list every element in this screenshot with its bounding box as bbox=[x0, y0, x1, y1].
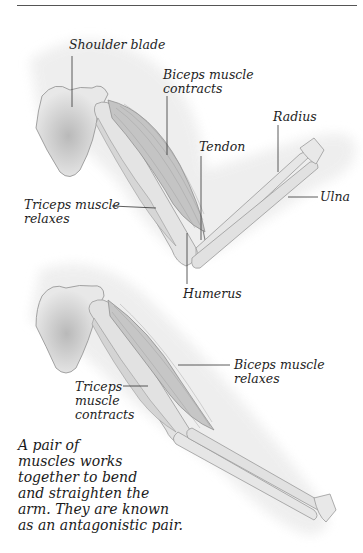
label-line: Triceps bbox=[75, 380, 134, 394]
label-humerus: Humerus bbox=[183, 287, 242, 301]
caption-line: A pair of bbox=[18, 437, 188, 453]
label-line: Triceps muscle bbox=[24, 198, 120, 212]
label-line: muscle bbox=[75, 394, 134, 408]
label-ulna: Ulna bbox=[320, 190, 350, 204]
label-shoulder-blade: Shoulder blade bbox=[69, 38, 165, 52]
caption-line: arm. They are known bbox=[18, 501, 188, 517]
caption-line: muscles works bbox=[18, 453, 188, 469]
label-tendon: Tendon bbox=[199, 140, 245, 154]
caption: A pair of muscles works together to bend… bbox=[18, 437, 188, 533]
caption-line: as an antagonistic pair. bbox=[18, 517, 188, 533]
label-line: contracts bbox=[163, 82, 254, 96]
caption-line: and straighten the bbox=[18, 485, 188, 501]
label-line: contracts bbox=[75, 408, 134, 422]
label-line: Biceps muscle bbox=[163, 68, 254, 82]
label-line: relaxes bbox=[24, 212, 120, 226]
label-triceps-contracts: Triceps muscle contracts bbox=[75, 380, 134, 422]
caption-line: together to bend bbox=[18, 469, 188, 485]
label-triceps-relaxes: Triceps muscle relaxes bbox=[24, 198, 120, 226]
label-line: relaxes bbox=[234, 372, 325, 386]
label-biceps-relaxes: Biceps muscle relaxes bbox=[234, 358, 325, 386]
label-line: Biceps muscle bbox=[234, 358, 325, 372]
label-biceps-contracts: Biceps muscle contracts bbox=[163, 68, 254, 96]
label-radius: Radius bbox=[273, 110, 317, 124]
